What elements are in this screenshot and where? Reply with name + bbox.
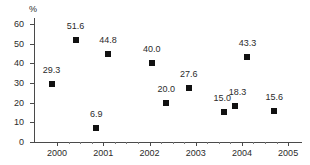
x-axis-minor-tick [173,142,174,144]
data-point [232,103,238,109]
data-point [149,60,155,66]
x-axis-tick-label: 2003 [186,148,206,158]
data-point [244,54,250,60]
x-axis-tick-label: 2004 [232,148,252,158]
x-axis-minor-tick [126,142,127,144]
y-axis-tick: 40 [30,63,34,64]
x-axis-minor-tick [184,142,185,144]
x-axis-minor-tick [161,142,162,144]
x-axis-minor-tick [92,142,93,144]
data-point-label: 15.6 [266,92,284,102]
data-point-label: 18.3 [229,87,247,97]
data-point [49,81,55,87]
data-point-label: 6.9 [90,109,103,119]
y-axis-tick-label: 10 [14,117,24,127]
y-axis-tick-label: 40 [14,58,24,68]
x-axis-minor-tick [80,142,81,144]
data-point-label: 51.6 [67,21,85,31]
x-axis-minor-tick [253,142,254,144]
data-point-label: 20.0 [157,84,175,94]
data-point-label: 43.3 [239,38,257,48]
y-axis-unit-label: % [29,4,37,14]
x-axis-tick [103,142,104,146]
x-axis-tick [288,142,289,146]
plot-area: 0102030405060 200020012002200320042005 2… [34,20,302,142]
scatter-chart: % 0102030405060 200020012002200320042005… [0,0,310,165]
data-point [93,125,99,131]
x-axis-minor-tick [207,142,208,144]
y-axis-tick: 10 [30,122,34,123]
x-axis-tick-label: 2001 [93,148,113,158]
x-axis-minor-tick [230,142,231,144]
x-axis-tick [196,142,197,146]
data-point [163,100,169,106]
data-point [186,85,192,91]
y-axis-tick: 50 [30,44,34,45]
data-point [271,108,277,114]
x-axis-tick-label: 2000 [47,148,67,158]
x-axis-minor-tick [219,142,220,144]
x-axis-minor-tick [69,142,70,144]
y-axis-tick: 20 [30,103,34,104]
data-point-label: 29.3 [43,65,61,75]
y-axis-tick-label: 0 [19,137,24,147]
x-axis-tick-label: 2005 [278,148,298,158]
data-point-label: 44.8 [99,35,117,45]
x-axis-tick [242,142,243,146]
x-axis-minor-tick [115,142,116,144]
y-axis-tick: 30 [30,83,34,84]
x-axis-minor-tick [265,142,266,144]
data-point [105,51,111,57]
x-axis-tick [57,142,58,146]
y-axis-tick-label: 50 [14,39,24,49]
y-axis-tick: 60 [30,24,34,25]
x-axis-tick-label: 2002 [140,148,160,158]
x-axis-minor-tick [138,142,139,144]
y-axis-tick-label: 30 [14,78,24,88]
data-point-label: 27.6 [180,69,198,79]
data-point [221,109,227,115]
data-point [73,37,79,43]
data-point-label: 40.0 [143,44,161,54]
y-axis-tick-label: 20 [14,98,24,108]
x-axis-minor-tick [277,142,278,144]
y-axis-tick-label: 60 [14,19,24,29]
x-axis-line [34,142,302,143]
x-axis-tick [150,142,151,146]
y-axis-tick: 0 [30,142,34,143]
